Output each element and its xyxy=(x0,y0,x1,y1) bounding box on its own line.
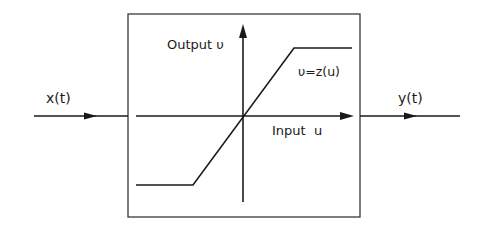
output-signal-label: y(t) xyxy=(398,91,423,105)
function-label: υ=z(u) xyxy=(298,66,340,79)
axis-arrowhead-icon xyxy=(239,24,247,38)
output-axis-label: Output υ xyxy=(167,38,224,51)
output-signal-arrow xyxy=(360,113,460,120)
input-axis-label: Input u xyxy=(272,124,322,137)
arrowhead-icon xyxy=(84,113,97,120)
input-signal-label: x(t) xyxy=(46,91,71,105)
diagram-graphics xyxy=(0,0,482,231)
input-signal-arrow xyxy=(34,113,128,120)
diagram-canvas: x(t) y(t) Output υ Input u υ=z(u) xyxy=(0,0,482,231)
axis-arrowhead-icon xyxy=(340,112,354,120)
arrowhead-icon xyxy=(404,113,417,120)
